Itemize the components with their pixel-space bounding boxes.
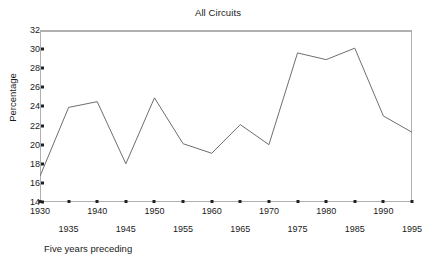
y-axis-ticks: 14161820222426283032 [0, 0, 40, 265]
x-tick-mark [353, 200, 356, 203]
x-tick-label: 1955 [163, 224, 203, 234]
x-tick-label: 1975 [278, 224, 318, 234]
y-tick-label: 24 [14, 101, 40, 111]
data-series-line [40, 48, 412, 176]
y-tick-label: 22 [14, 121, 40, 131]
y-tick-mark [41, 67, 44, 70]
x-tick-label: 1950 [134, 206, 174, 216]
x-tick-mark [267, 200, 270, 203]
y-tick-mark [41, 86, 44, 89]
x-tick-label: 1985 [335, 224, 375, 234]
x-tick-mark [124, 200, 127, 203]
x-tick-mark [210, 200, 213, 203]
x-tick-label: 1995 [392, 224, 432, 234]
y-tick-mark [41, 105, 44, 108]
x-tick-mark [411, 200, 414, 203]
x-tick-label: 1960 [192, 206, 232, 216]
plot-area [40, 30, 412, 202]
x-tick-label: 1970 [249, 206, 289, 216]
x-tick-mark [96, 200, 99, 203]
x-tick-label: 1930 [20, 206, 60, 216]
y-tick-label: 16 [14, 178, 40, 188]
x-tick-mark [325, 200, 328, 203]
chart-page: All Circuits Percentage 1416182022242628… [0, 0, 436, 265]
x-tick-mark [296, 200, 299, 203]
x-tick-mark [67, 200, 70, 203]
y-tick-label: 32 [14, 25, 40, 35]
x-tick-label: 1935 [49, 224, 89, 234]
x-tick-mark [382, 200, 385, 203]
x-axis-caption: Five years preceding [44, 243, 132, 254]
x-tick-label: 1980 [306, 206, 346, 216]
y-tick-label: 18 [14, 159, 40, 169]
y-tick-mark [41, 162, 44, 165]
y-tick-mark [41, 124, 44, 127]
y-tick-mark [41, 201, 44, 204]
x-tick-label: 1940 [77, 206, 117, 216]
y-tick-label: 30 [14, 44, 40, 54]
x-tick-mark [239, 200, 242, 203]
y-tick-label: 20 [14, 140, 40, 150]
x-tick-label: 1965 [220, 224, 260, 234]
x-tick-label: 1945 [106, 224, 146, 234]
x-tick-mark [182, 200, 185, 203]
y-tick-label: 28 [14, 63, 40, 73]
x-tick-label: 1990 [363, 206, 403, 216]
chart-title: All Circuits [0, 7, 436, 18]
y-tick-mark [41, 181, 44, 184]
y-tick-label: 26 [14, 82, 40, 92]
y-tick-mark [41, 48, 44, 51]
x-tick-mark [153, 200, 156, 203]
y-tick-mark [41, 143, 44, 146]
